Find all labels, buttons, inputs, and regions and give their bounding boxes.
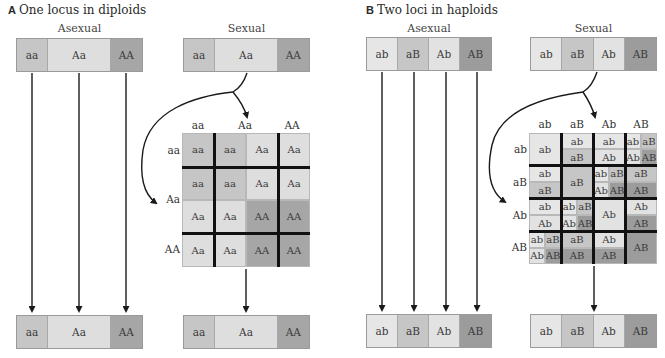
arrow-to-grid-columns-a-icon	[233, 92, 247, 117]
arrows-layer	[0, 0, 665, 358]
arrow-sexual-stem-b-icon	[583, 72, 597, 92]
arrow-to-grid-columns-b-icon	[583, 92, 595, 117]
arrow-to-grid-rows-a-icon	[142, 92, 233, 203]
arrow-to-grid-rows-b-icon	[489, 92, 583, 202]
arrow-sexual-stem-a-icon	[233, 73, 247, 92]
